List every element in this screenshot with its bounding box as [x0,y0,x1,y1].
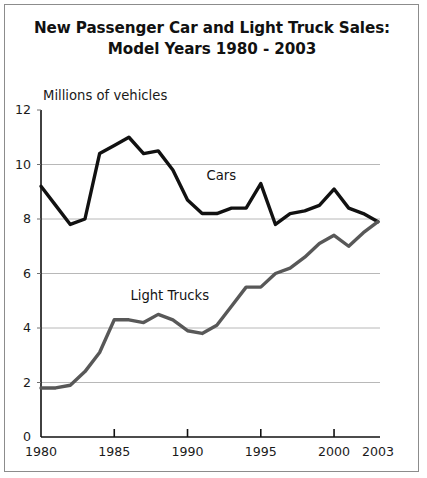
y-tick-label: 8 [5,211,31,226]
x-tick-label: 1995 [239,444,283,459]
chart-figure: New Passenger Car and Light Truck Sales:… [0,0,427,478]
x-tick-label: 2000 [312,444,356,459]
plot-area [0,0,427,478]
series-label-light-trucks: Light Trucks [130,288,209,303]
y-tick-label: 0 [5,429,31,444]
x-tick-label: 1985 [92,444,136,459]
y-tick-label: 6 [5,266,31,281]
y-tick-label: 10 [5,157,31,172]
series-label-cars: Cars [207,168,237,183]
x-tick-label: 2003 [356,444,400,459]
x-tick-label: 1990 [166,444,210,459]
y-tick-label: 2 [5,375,31,390]
series-line-light-trucks [41,222,378,388]
x-tick-label: 1980 [19,444,63,459]
gridlines [41,165,380,383]
y-tick-label: 4 [5,320,31,335]
y-tick-label: 12 [5,102,31,117]
